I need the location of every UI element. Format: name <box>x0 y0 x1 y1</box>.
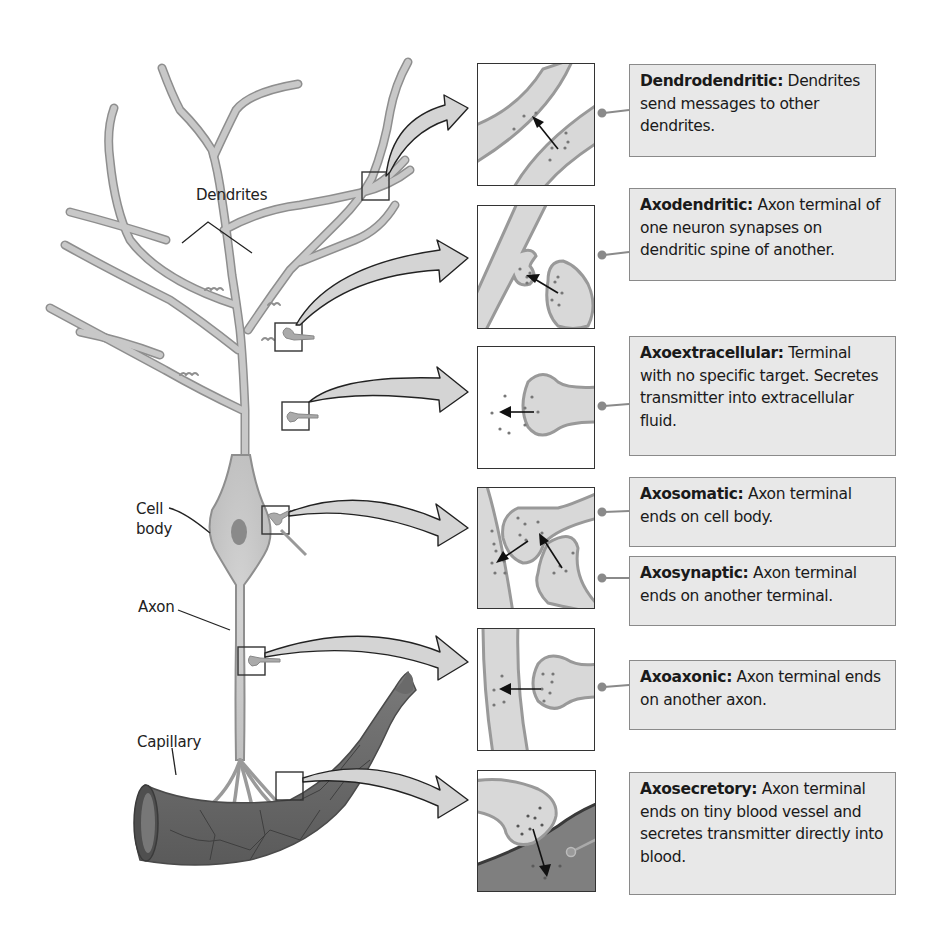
inset-axoextracellular <box>477 346 595 469</box>
inset-axosecretory <box>477 770 596 892</box>
term-axoextracellular: Axoextracellular: <box>640 344 784 362</box>
label-axon: Axon <box>138 598 175 617</box>
cell-body <box>210 455 271 760</box>
dendrite-tree <box>50 62 410 460</box>
capillary <box>134 672 416 865</box>
term-axosomatic: Axosomatic: <box>640 485 743 503</box>
label-cell-body-line2: body <box>136 520 172 539</box>
inset-dendrodendritic <box>477 63 595 186</box>
term-axosecretory: Axosecretory: <box>640 780 757 798</box>
callout-axosecretory: Axosecretory: Axon terminal ends on tiny… <box>629 772 896 895</box>
inset-axosomatic-axosynaptic <box>477 487 595 609</box>
label-cell-body-line1: Cell <box>136 500 163 519</box>
callout-axosynaptic: Axosynaptic: Axon terminal ends on anoth… <box>629 556 896 626</box>
term-dendrodendritic: Dendrodendritic: <box>640 72 783 90</box>
callout-dendrodendritic: Dendrodendritic: Dendrites send messages… <box>629 64 876 157</box>
callout-connectors <box>599 110 630 691</box>
inset-axoaxonic <box>477 628 595 751</box>
callout-axoaxonic: Axoaxonic: Axon terminal ends on another… <box>629 660 896 730</box>
label-capillary: Capillary <box>137 733 201 752</box>
inset-axodendritic <box>477 205 595 329</box>
term-axosynaptic: Axosynaptic: <box>640 564 748 582</box>
callout-axosomatic: Axosomatic: Axon terminal ends on cell b… <box>629 477 896 547</box>
term-axoaxonic: Axoaxonic: <box>640 668 732 686</box>
label-dendrites: Dendrites <box>196 186 267 205</box>
synapse-types-diagram: Dendrites Cell body Axon Capillary <box>0 0 947 936</box>
callout-axodendritic: Axodendritic: Axon terminal of one neuro… <box>629 188 896 281</box>
sample-boxes <box>238 172 389 800</box>
term-axodendritic: Axodendritic: <box>640 196 753 214</box>
callout-axoextracellular: Axoextracellular: Terminal with no speci… <box>629 336 896 456</box>
